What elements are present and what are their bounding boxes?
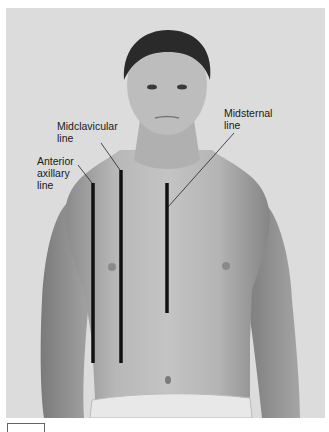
anterior-axillary-label: Anterior axillary line <box>37 155 74 191</box>
shorts <box>90 394 252 418</box>
midsternal-label: Midsternal line <box>224 107 272 131</box>
navel <box>165 376 171 384</box>
left-nipple <box>108 263 116 271</box>
midclavicular-label: Midclavicular line <box>57 120 118 144</box>
figure-corner-box <box>7 423 45 432</box>
anatomy-photo <box>6 8 325 418</box>
right-nipple <box>222 262 230 270</box>
torso-illustration <box>6 8 325 418</box>
